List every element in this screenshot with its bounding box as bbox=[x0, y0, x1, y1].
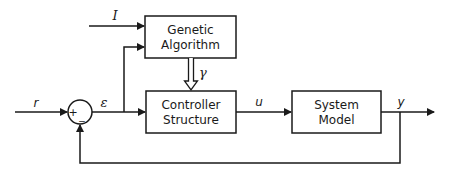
ga-label-line1: Genetic bbox=[167, 23, 213, 37]
genetic-algorithm-block: Genetic Algorithm bbox=[145, 16, 236, 58]
plant-label-line2: Model bbox=[318, 113, 354, 127]
controller-label-line1: Controller bbox=[161, 98, 220, 112]
y-label: y bbox=[396, 95, 405, 109]
controller-label-line2: Structure bbox=[163, 113, 219, 127]
minus-sign: _ bbox=[78, 109, 85, 122]
controller-structure-block: Controller Structure bbox=[146, 91, 236, 133]
ga-label-line2: Algorithm bbox=[161, 38, 220, 52]
gamma-label: γ bbox=[199, 65, 207, 80]
plant-label-line1: System bbox=[314, 98, 359, 112]
epsilon-label: ε bbox=[101, 95, 108, 110]
plus-sign: + bbox=[68, 106, 77, 119]
ga-control-block-diagram: Genetic Algorithm Controller Structure S… bbox=[0, 0, 451, 178]
u-label: u bbox=[255, 95, 263, 109]
error-signal: ε bbox=[92, 95, 145, 112]
r-label: r bbox=[34, 96, 40, 110]
summing-junction: + _ bbox=[68, 100, 92, 124]
system-model-block: System Model bbox=[292, 91, 381, 133]
reference-signal: r bbox=[15, 96, 67, 112]
output-signal: y bbox=[381, 95, 434, 112]
i-label: I bbox=[111, 8, 118, 23]
error-branch-to-ga bbox=[124, 47, 144, 112]
control-signal: u bbox=[236, 95, 291, 112]
gamma-parameter-arrow: γ bbox=[185, 58, 208, 90]
ga-input-signal: I bbox=[89, 8, 144, 26]
